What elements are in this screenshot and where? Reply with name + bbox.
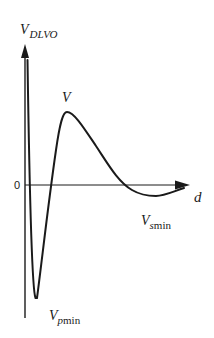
dlvo-plot	[0, 0, 214, 338]
y-axis-arrow-icon	[21, 44, 29, 58]
y-axis-label: VDLVO	[20, 23, 58, 37]
barrier-label-main: V	[62, 90, 71, 105]
dlvo-curve	[28, 60, 185, 298]
secondary-min-sub-min: min	[154, 219, 171, 231]
primary-min-label: Vpmin	[49, 309, 80, 323]
origin-label: 0	[14, 180, 20, 191]
x-axis-label: d	[194, 190, 202, 205]
dlvo-diagram: VDLVO 0 d V Vsmin Vpmin	[0, 0, 214, 338]
barrier-label: V	[62, 91, 71, 105]
primary-min-main: V	[49, 308, 58, 323]
primary-min-sub-min: min	[63, 314, 80, 326]
y-axis-label-main: V	[20, 22, 29, 37]
secondary-min-main: V	[141, 213, 150, 228]
secondary-min-label: Vsmin	[141, 214, 171, 228]
y-axis-label-sub: DLVO	[30, 28, 58, 40]
